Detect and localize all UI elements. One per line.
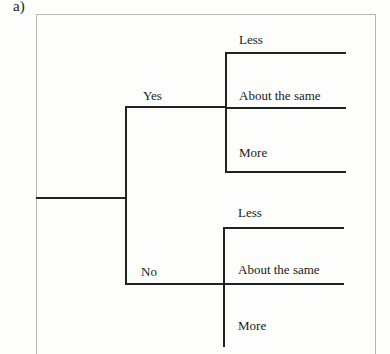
no-more-label: More (238, 318, 266, 334)
yes-split-line (225, 52, 227, 173)
no-same-line (223, 283, 344, 285)
diagram-frame (36, 14, 376, 354)
no-branch-label: No (141, 264, 157, 280)
no-branch-line (125, 283, 226, 285)
no-same-label: About the same (238, 262, 320, 278)
root-split-line (125, 106, 127, 285)
yes-less-label: Less (239, 32, 263, 48)
yes-branch-line (125, 106, 227, 108)
root-line (36, 197, 127, 199)
yes-same-label: About the same (239, 88, 321, 104)
yes-branch-label: Yes (143, 88, 162, 104)
yes-more-line (225, 171, 346, 173)
no-split-line (223, 227, 225, 347)
yes-same-line (225, 107, 346, 109)
no-less-line (223, 227, 344, 229)
no-less-label: Less (238, 205, 262, 221)
yes-more-label: More (239, 145, 267, 161)
yes-less-line (225, 52, 346, 54)
panel-label: a) (13, 0, 25, 15)
